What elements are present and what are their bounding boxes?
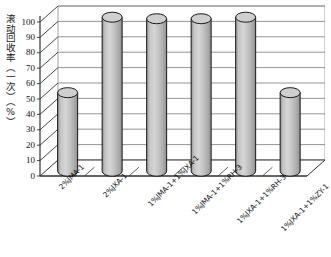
bar-body <box>147 19 167 176</box>
bar-top-ellipse <box>147 14 167 24</box>
y-axis-tick-label: 90 <box>11 32 35 42</box>
axis-depth-connector <box>40 68 58 84</box>
bar-cylinder <box>191 14 211 176</box>
y-axis-tick-label: 50 <box>11 94 35 104</box>
bar-cylinder <box>58 88 78 177</box>
axis-depth-connector <box>40 52 58 68</box>
y-axis-tick-label: 0 <box>11 171 35 181</box>
axis-depth-connector <box>40 129 58 145</box>
bar-cylinder <box>102 12 122 176</box>
bar-cylinder <box>147 14 167 176</box>
bar-body <box>58 93 78 177</box>
axis-depth-connector <box>40 114 58 130</box>
axis-depth-connector <box>40 6 58 22</box>
y-axis-tick-label: 80 <box>11 47 35 57</box>
bar-body <box>102 17 122 176</box>
bar-top-ellipse <box>191 14 211 24</box>
bar-cylinder <box>280 88 300 177</box>
axis-depth-connector <box>40 98 58 114</box>
axis-depth-connector <box>40 83 58 99</box>
y-axis-tick-label: 100 <box>11 17 35 27</box>
bar-cylinder <box>236 12 256 176</box>
y-axis-tick-label: 40 <box>11 109 35 119</box>
y-axis-tick-label: 10 <box>11 155 35 165</box>
bar-top-ellipse <box>58 88 78 98</box>
bar-body <box>236 17 256 176</box>
y-axis-tick-label: 70 <box>11 63 35 73</box>
y-axis-tick-label: 60 <box>11 78 35 88</box>
bar-body <box>280 93 300 177</box>
axis-depth-connector <box>40 21 58 37</box>
bar-top-ellipse <box>236 12 256 22</box>
bar-top-ellipse <box>280 88 300 98</box>
bar-top-ellipse <box>102 12 122 22</box>
y-axis-tick-label: 30 <box>11 124 35 134</box>
y-axis-tick-label: 20 <box>11 140 35 150</box>
axis-depth-connector <box>40 37 58 53</box>
axis-depth-connector <box>40 145 58 161</box>
